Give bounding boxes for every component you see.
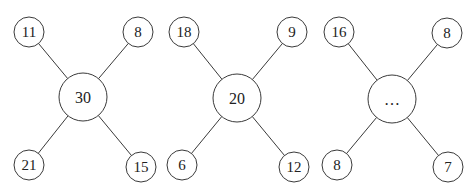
corner-node: 16 bbox=[324, 17, 354, 47]
corner-node: 8 bbox=[322, 150, 352, 180]
center-label: … bbox=[384, 91, 400, 108]
edge-line bbox=[192, 117, 222, 154]
corner-label: 6 bbox=[178, 157, 186, 173]
edge-line bbox=[252, 117, 284, 156]
corner-node: 21 bbox=[14, 150, 44, 180]
corner-label: 15 bbox=[134, 159, 149, 175]
diagram-2: 20189612 bbox=[167, 17, 309, 182]
corner-label: 7 bbox=[444, 159, 452, 175]
corner-node: 9 bbox=[277, 17, 307, 47]
edge-line bbox=[39, 44, 68, 79]
corner-label: 8 bbox=[134, 24, 142, 40]
diagram-1: 301182115 bbox=[14, 17, 156, 182]
edge-line bbox=[252, 44, 282, 80]
corner-node: 6 bbox=[167, 150, 197, 180]
edge-line bbox=[98, 115, 131, 155]
edge-line bbox=[407, 118, 438, 156]
corner-node: 7 bbox=[433, 152, 463, 182]
corner-node: 15 bbox=[126, 152, 156, 182]
corner-label: 11 bbox=[22, 24, 36, 40]
corner-label: 16 bbox=[332, 24, 348, 40]
number-puzzle-diagram: 30118211520189612…16887 bbox=[0, 0, 475, 196]
corner-node: 8 bbox=[123, 17, 153, 47]
corner-label: 21 bbox=[22, 157, 37, 173]
center-label: 20 bbox=[229, 90, 245, 107]
corner-node: 18 bbox=[169, 17, 199, 47]
edge-line bbox=[348, 44, 377, 80]
center-node: 30 bbox=[59, 73, 107, 121]
center-node: … bbox=[368, 75, 416, 123]
corner-node: 8 bbox=[432, 18, 462, 48]
corner-node: 11 bbox=[14, 17, 44, 47]
edge-line bbox=[193, 44, 222, 80]
corner-label: 8 bbox=[443, 25, 451, 41]
center-label: 30 bbox=[75, 89, 91, 106]
corner-label: 12 bbox=[287, 159, 302, 175]
corner-label: 9 bbox=[288, 24, 296, 40]
corner-node: 12 bbox=[279, 152, 309, 182]
corner-label: 8 bbox=[333, 157, 341, 173]
diagram-3: …16887 bbox=[322, 17, 463, 182]
corner-label: 18 bbox=[177, 24, 192, 40]
edge-line bbox=[99, 43, 129, 78]
edge-line bbox=[407, 45, 437, 81]
center-node: 20 bbox=[213, 74, 261, 122]
edge-line bbox=[347, 117, 377, 153]
edge-line bbox=[38, 116, 68, 153]
